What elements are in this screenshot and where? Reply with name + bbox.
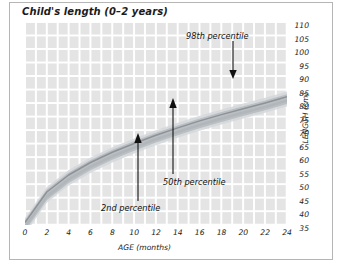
- growth-chart-figure: Child's length (0–2 years) LENGTH (cm) 1…: [0, 0, 339, 266]
- annotation-98th-percentile-arrow: [228, 41, 240, 79]
- annotation-98th-percentile-label: 98th percentile: [186, 31, 249, 41]
- y-tick-55: 55: [292, 169, 309, 178]
- x-tick-24: 24: [282, 228, 292, 237]
- y-tick-65: 65: [292, 142, 309, 151]
- x-tick-18: 18: [217, 228, 227, 237]
- x-tick-14: 14: [173, 228, 183, 237]
- y-tick-45: 45: [292, 196, 309, 205]
- x-tick-16: 16: [195, 228, 205, 237]
- y-tick-100: 100: [292, 48, 309, 57]
- x-tick-12: 12: [151, 228, 161, 237]
- percentile-band: [25, 22, 287, 225]
- y-tick-50: 50: [292, 183, 309, 192]
- x-tick-4: 4: [66, 228, 71, 237]
- annotation-2nd-percentile-label: 2nd percentile: [101, 203, 160, 213]
- annotation-2nd-percentile-arrow: [133, 133, 145, 201]
- y-tick-110: 110: [292, 21, 309, 30]
- y-tick-35: 35: [292, 223, 309, 232]
- chart-title: Child's length (0–2 years): [22, 6, 168, 17]
- annotation-50th-percentile-label: 50th percentile: [163, 177, 226, 187]
- annotation-50th-percentile-arrow: [168, 98, 180, 174]
- x-tick-2: 2: [44, 228, 49, 237]
- x-axis-title: AGE (months): [0, 243, 339, 252]
- plot-area: [25, 22, 287, 225]
- y-axis-title: LENGTH (cm): [301, 93, 310, 144]
- x-tick-8: 8: [110, 228, 115, 237]
- x-tick-6: 6: [88, 228, 93, 237]
- x-tick-20: 20: [238, 228, 248, 237]
- y-tick-40: 40: [292, 210, 309, 219]
- y-tick-90: 90: [292, 75, 309, 84]
- y-tick-105: 105: [292, 34, 309, 43]
- y-tick-60: 60: [292, 156, 309, 165]
- x-tick-22: 22: [260, 228, 270, 237]
- x-tick-0: 0: [23, 228, 28, 237]
- x-tick-10: 10: [129, 228, 139, 237]
- y-tick-95: 95: [292, 61, 309, 70]
